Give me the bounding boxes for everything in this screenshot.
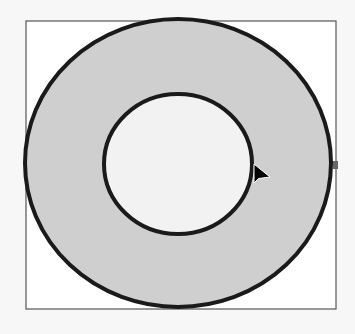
annulus-diagram — [0, 0, 355, 334]
inner-circle[interactable] — [104, 94, 252, 234]
resize-handle[interactable] — [333, 161, 338, 169]
